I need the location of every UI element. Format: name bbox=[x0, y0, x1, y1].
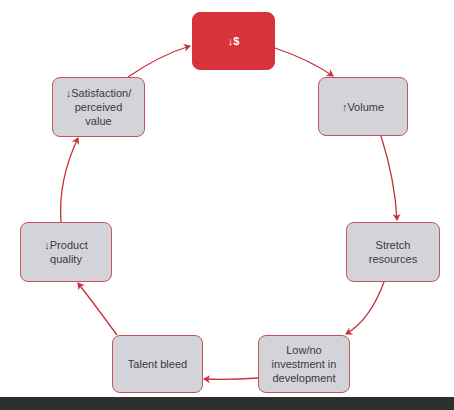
node-product-quality-decrease: ↓Product quality bbox=[20, 222, 112, 282]
arrow-price-to-volume bbox=[275, 48, 333, 76]
arrow-stretch-to-investment bbox=[346, 282, 384, 334]
arrow-talent-to-quality bbox=[78, 283, 117, 335]
node-talent-bleed: Talent bleed bbox=[112, 335, 203, 393]
arrow-investment-to-talent bbox=[204, 378, 258, 379]
arrow-quality-to-satisfaction bbox=[61, 138, 78, 222]
arrow-satisfaction-to-price bbox=[128, 46, 190, 77]
node-satisfaction-decrease: ↓Satisfaction/ perceived value bbox=[52, 77, 145, 137]
arrow-volume-to-stretch bbox=[381, 136, 397, 220]
node-stretch-resources: Stretch resources bbox=[346, 222, 440, 282]
bottom-dark-bar bbox=[0, 397, 454, 410]
node-volume-increase: ↑Volume bbox=[318, 77, 408, 136]
node-price-decrease: ↓$ bbox=[192, 12, 275, 70]
node-low-investment: Low/no investment in development bbox=[258, 335, 350, 393]
cycle-diagram: ↓$ ↑Volume Stretch resources Low/no inve… bbox=[0, 0, 454, 410]
